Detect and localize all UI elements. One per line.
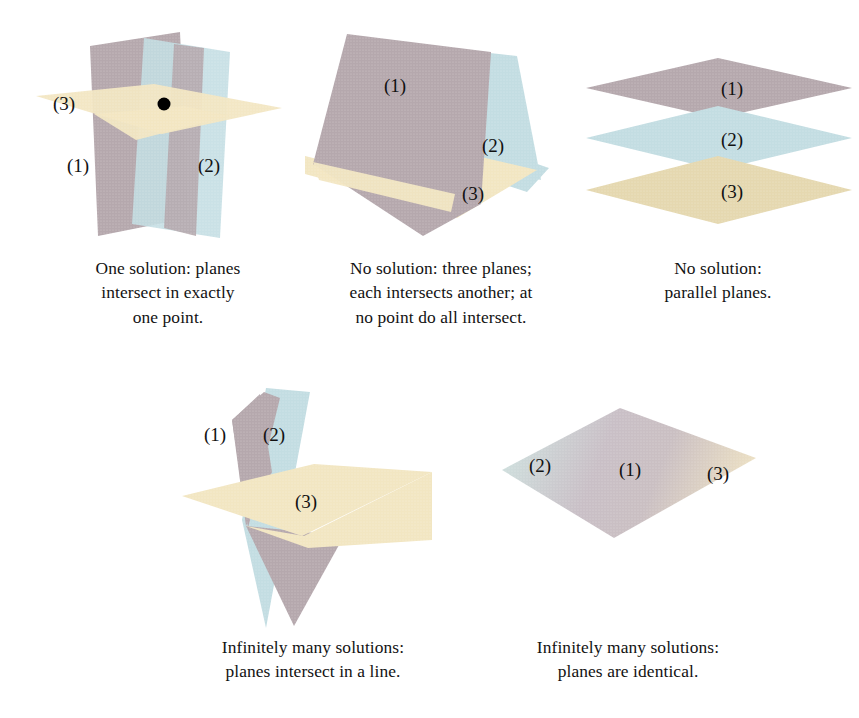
caption-line: No solution: three planes;	[305, 256, 577, 280]
figure-no-solution-three-planes: (1) (2) (3) No solution: three planes; e…	[305, 22, 577, 329]
caption-line: Infinitely many solutions:	[478, 635, 778, 659]
plane-2-label: (2)	[263, 424, 285, 446]
plane-2-label: (2)	[482, 135, 504, 157]
planes-line-intersection-svg: (1) (2) (3)	[168, 386, 458, 631]
plane-2-label: (2)	[198, 155, 220, 177]
intersection-point-marker	[158, 98, 171, 111]
figure-parallel-planes: (1) (2) (3) No solution: parallel planes…	[580, 22, 856, 305]
plane-3-label: (3)	[462, 183, 484, 205]
caption-identical-planes: Infinitely many solutions: planes are id…	[478, 635, 778, 684]
diagram-one-solution: (3) (1) (2)	[34, 22, 302, 250]
plane-1-label: (1)	[384, 75, 406, 97]
plane-1-label: (1)	[619, 459, 641, 481]
caption-line: Infinitely many solutions:	[168, 635, 458, 659]
plane-2-label: (2)	[721, 129, 743, 151]
diagram-no-solution-three-planes: (1) (2) (3)	[305, 22, 577, 250]
figure-identical-planes: (2) (1) (3) Infinitely many solutions: p…	[478, 386, 778, 684]
figure-line-intersection: (1) (2) (3) Infinitely many solutions: p…	[168, 386, 458, 684]
caption-line: intersect in exactly	[34, 280, 302, 304]
plane-1-label: (1)	[67, 155, 89, 177]
plane-2-label: (2)	[529, 455, 551, 477]
caption-line-intersection: Infinitely many solutions: planes inters…	[168, 635, 458, 684]
caption-parallel-planes: No solution: parallel planes.	[580, 256, 856, 305]
caption-one-solution: One solution: planes intersect in exactl…	[34, 256, 302, 329]
diagram-identical-planes: (2) (1) (3)	[478, 386, 778, 631]
planes-pairwise-intersection-svg: (1) (2) (3)	[305, 22, 577, 250]
caption-line: one point.	[34, 305, 302, 329]
plane-3-label: (3)	[707, 463, 729, 485]
diagram-line-intersection: (1) (2) (3)	[168, 386, 458, 631]
caption-line: planes intersect in a line.	[168, 659, 458, 683]
figure-one-solution: (3) (1) (2) One solution: planes interse…	[34, 22, 302, 329]
identical-planes-svg: (2) (1) (3)	[478, 386, 778, 631]
planes-point-intersection-svg: (3) (1) (2)	[34, 22, 302, 250]
plane-3-label: (3)	[721, 181, 743, 203]
caption-line: One solution: planes	[34, 256, 302, 280]
caption-line: No solution:	[580, 256, 856, 280]
diagram-parallel-planes: (1) (2) (3)	[580, 22, 856, 250]
plane-3-label: (3)	[53, 93, 75, 115]
plane-1-label: (1)	[204, 424, 226, 446]
caption-line: planes are identical.	[478, 659, 778, 683]
caption-line: parallel planes.	[580, 280, 856, 304]
caption-no-solution-three-planes: No solution: three planes; each intersec…	[305, 256, 577, 329]
caption-line: each intersects another; at	[305, 280, 577, 304]
caption-line: no point do all intersect.	[305, 305, 577, 329]
plane-1-label: (1)	[721, 78, 743, 100]
plane-3-label: (3)	[295, 491, 317, 513]
parallel-planes-svg: (1) (2) (3)	[580, 22, 856, 250]
